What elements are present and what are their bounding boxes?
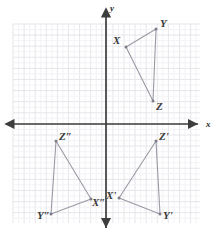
vertex-label-Yp: Y″ bbox=[37, 209, 50, 221]
triangle-XYZ: XYZ bbox=[112, 17, 168, 112]
vertex-label-Zp: Z″ bbox=[58, 130, 72, 142]
vertex-label-Xp: X″ bbox=[91, 196, 105, 208]
vertex-label-Z: Z bbox=[155, 100, 163, 112]
vertex-point bbox=[55, 140, 58, 143]
x-axis-label: x bbox=[205, 119, 211, 129]
coordinate-plane-svg: xyXYZX'Y'Z'X″Y″Z″ bbox=[0, 0, 216, 229]
coordinate-plane-figure: xyXYZX'Y'Z'X″Y″Z″ bbox=[0, 0, 216, 229]
vertex-point bbox=[125, 46, 128, 49]
vertex-point bbox=[155, 140, 158, 143]
y-axis-label: y bbox=[109, 3, 115, 13]
vertex-point bbox=[118, 197, 121, 200]
vertex-label-X: X bbox=[112, 34, 121, 46]
vertex-point bbox=[155, 28, 158, 31]
vertex-label-Zp: Z' bbox=[158, 130, 169, 142]
vertex-label-Y: Y bbox=[160, 17, 168, 29]
vertex-point bbox=[50, 213, 53, 216]
vertex-label-Yp: Y' bbox=[163, 209, 173, 221]
vertex-label-Xp: X' bbox=[105, 189, 116, 201]
vertex-point bbox=[152, 100, 155, 103]
vertex-point bbox=[159, 213, 162, 216]
